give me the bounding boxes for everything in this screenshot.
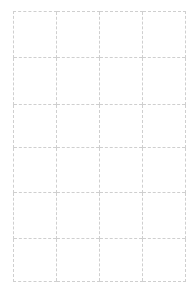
grid-cell-text bbox=[143, 193, 185, 238]
grid-cell-r0c3[interactable] bbox=[143, 12, 186, 58]
grid-cell-text bbox=[14, 239, 56, 281]
grid-cell-text bbox=[14, 105, 56, 147]
page-canvas bbox=[0, 0, 194, 297]
grid-cell-r5c3[interactable] bbox=[143, 239, 186, 282]
grid-cell-text bbox=[14, 12, 56, 57]
grid-cell-r3c1[interactable] bbox=[57, 148, 100, 193]
grid-cell-r3c3[interactable] bbox=[143, 148, 186, 193]
grid-cell-text bbox=[14, 58, 56, 104]
grid-cell-text bbox=[57, 239, 99, 281]
grid-cell-r2c0[interactable] bbox=[14, 105, 57, 148]
grid-cell-text bbox=[143, 58, 185, 104]
grid-body bbox=[14, 12, 186, 282]
grid-cell-text bbox=[14, 193, 56, 238]
grid-cell-text bbox=[100, 105, 142, 147]
grid-cell-r4c1[interactable] bbox=[57, 193, 100, 239]
blank-grid-table bbox=[13, 11, 186, 282]
grid-cell-text bbox=[143, 148, 185, 192]
grid-cell-r1c2[interactable] bbox=[100, 58, 143, 105]
grid-cell-r3c2[interactable] bbox=[100, 148, 143, 193]
grid-cell-r4c0[interactable] bbox=[14, 193, 57, 239]
grid-cell-r0c1[interactable] bbox=[57, 12, 100, 58]
table-row bbox=[14, 239, 186, 282]
grid-cell-r2c2[interactable] bbox=[100, 105, 143, 148]
grid-cell-r3c0[interactable] bbox=[14, 148, 57, 193]
grid-cell-r5c0[interactable] bbox=[14, 239, 57, 282]
grid-cell-text bbox=[57, 58, 99, 104]
grid-cell-r2c1[interactable] bbox=[57, 105, 100, 148]
table-row bbox=[14, 58, 186, 105]
grid-cell-text bbox=[100, 12, 142, 57]
grid-cell-r0c0[interactable] bbox=[14, 12, 57, 58]
grid-cell-text bbox=[14, 148, 56, 192]
grid-cell-r4c3[interactable] bbox=[143, 193, 186, 239]
grid-cell-text bbox=[143, 239, 185, 281]
grid-cell-text bbox=[57, 12, 99, 57]
grid-cell-text bbox=[57, 105, 99, 147]
grid-cell-r1c1[interactable] bbox=[57, 58, 100, 105]
table-row bbox=[14, 12, 186, 58]
grid-cell-text bbox=[100, 58, 142, 104]
grid-cell-r5c2[interactable] bbox=[100, 239, 143, 282]
grid-cell-text bbox=[143, 105, 185, 147]
grid-cell-text bbox=[57, 148, 99, 192]
grid-cell-r2c3[interactable] bbox=[143, 105, 186, 148]
table-row bbox=[14, 148, 186, 193]
grid-cell-r5c1[interactable] bbox=[57, 239, 100, 282]
grid-cell-text bbox=[100, 239, 142, 281]
grid-cell-text bbox=[57, 193, 99, 238]
grid-cell-text bbox=[143, 12, 185, 57]
grid-cell-r1c3[interactable] bbox=[143, 58, 186, 105]
table-row bbox=[14, 105, 186, 148]
grid-cell-r0c2[interactable] bbox=[100, 12, 143, 58]
grid-cell-r1c0[interactable] bbox=[14, 58, 57, 105]
grid-cell-text bbox=[100, 148, 142, 192]
table-row bbox=[14, 193, 186, 239]
grid-cell-text bbox=[100, 193, 142, 238]
grid-cell-r4c2[interactable] bbox=[100, 193, 143, 239]
